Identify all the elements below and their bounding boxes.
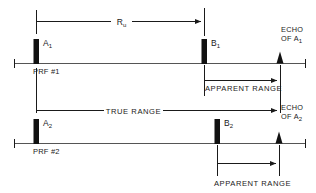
- pulse-a2: [34, 119, 40, 144]
- ru-label: Ru: [117, 17, 126, 28]
- echo-of-a2-line2: OF A2: [281, 112, 303, 122]
- pulse-a1: [34, 39, 40, 64]
- pulse-b1-label: B1: [211, 38, 221, 49]
- apparent-range-bottom-group: APPARENT RANGE: [214, 145, 291, 188]
- pulse-a2-label: A2: [43, 118, 53, 129]
- prf2-label: PRF #2: [33, 147, 60, 156]
- apparent-range-bottom-label: APPARENT RANGE: [214, 179, 291, 188]
- echo-pulse-a1: [277, 52, 284, 64]
- pulse-b2: [215, 119, 221, 144]
- echo-of-a1-line2: OF A1: [281, 34, 303, 44]
- apparent-range-top-group: APPARENT RANGE: [205, 65, 283, 96]
- diagram-canvas: Ru A1 B1 PRF #1 ECHO OF A1 APPARENT RANG…: [0, 0, 316, 193]
- apparent-range-top-label: APPARENT RANGE: [205, 84, 282, 93]
- prf1-timeline-group: A1 B1 PRF #1 ECHO OF A1: [14, 25, 306, 76]
- echo-of-a2-line1: ECHO: [281, 103, 303, 112]
- echo-of-a1-line1: ECHO: [281, 25, 303, 34]
- pulse-b1: [202, 39, 208, 64]
- ru-dimension-group: Ru: [37, 8, 205, 36]
- true-range-label: TRUE RANGE: [106, 107, 161, 116]
- pulse-b2-label: B2: [224, 118, 234, 129]
- radar-prf-range-diagram: Ru A1 B1 PRF #1 ECHO OF A1 APPARENT RANG…: [0, 0, 316, 193]
- echo-pulse-a2: [276, 132, 283, 144]
- pulse-a1-label: A1: [43, 38, 53, 49]
